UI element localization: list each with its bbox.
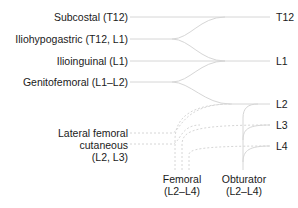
iliohypogastric-l1-branch: [172, 39, 225, 61]
label-obturator-line1: Obturator: [218, 173, 270, 185]
label-subcostal: Subcostal (T12): [54, 11, 128, 23]
label-lfc-line2: cutaneous: [80, 139, 128, 151]
genitofemoral-l1-branch: [130, 61, 225, 82]
lfc-l2-branch: [130, 104, 230, 133]
root-l3: L3: [276, 119, 288, 131]
genitofemoral-l2-branch: [172, 82, 270, 104]
obturator-l2-branch: [243, 104, 258, 170]
obturator-l3-branch: [243, 125, 270, 140]
iliohypogastric-t12-branch: [130, 17, 225, 39]
root-l2: L2: [276, 98, 288, 110]
root-l4: L4: [276, 140, 288, 152]
obturator-l4-branch: [243, 146, 270, 162]
femoral-l4-branch: [189, 146, 270, 170]
label-lfc-line1: Lateral femoral: [58, 127, 128, 139]
root-t12: T12: [276, 11, 294, 23]
label-lfc-line3: (L2, L3): [92, 151, 128, 163]
femoral-l3-branch: [182, 125, 270, 170]
label-femoral-line1: Femoral: [162, 173, 202, 185]
label-iliohypogastric: Iliohypogastric (T12, L1): [15, 33, 128, 45]
label-femoral-line2: (L2–L4): [162, 185, 202, 197]
label-ilioinguinal: Ilioinguinal (L1): [57, 55, 128, 67]
lfc-l3-branch: [130, 125, 200, 144]
label-genitofemoral: Genitofemoral (L1–L2): [23, 76, 128, 88]
root-l1: L1: [276, 55, 288, 67]
label-obturator-line2: (L2–L4): [218, 185, 270, 197]
